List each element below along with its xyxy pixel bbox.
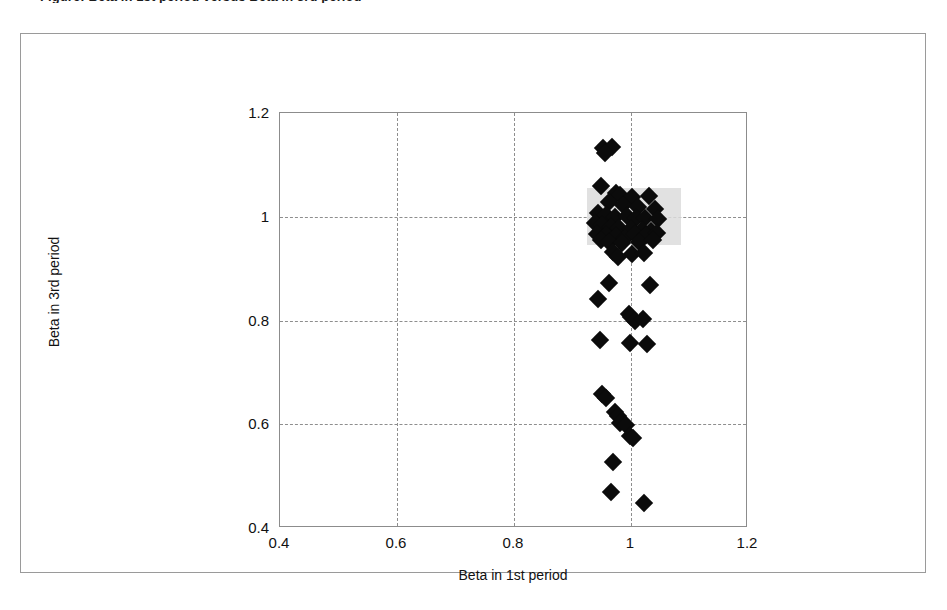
x-tick-label: 1 [626, 534, 634, 551]
y-tick-label: 1.2 [221, 104, 269, 121]
gridline-vertical [514, 113, 515, 526]
y-tick-label: 0.8 [221, 311, 269, 328]
data-point-marker [600, 274, 618, 292]
data-point-marker [589, 290, 607, 308]
x-tick-label: 0.6 [386, 534, 407, 551]
x-tick-label: 1.2 [737, 534, 758, 551]
data-point-marker [591, 331, 609, 349]
gridline-horizontal [280, 424, 746, 425]
scatter-plot-area [279, 112, 747, 527]
data-point-marker [641, 276, 659, 294]
y-tick-label: 0.4 [221, 519, 269, 536]
figure-caption: Figure: Beta in 1st period versus Beta i… [40, 0, 840, 3]
data-point-marker [621, 334, 639, 352]
gridline-horizontal [280, 321, 746, 322]
y-axis-title: Beta in 3rd period [46, 192, 62, 392]
gridline-vertical [397, 113, 398, 526]
x-tick-label: 0.4 [269, 534, 290, 551]
gridline-horizontal [280, 217, 746, 218]
data-point-marker [635, 494, 653, 512]
y-tick-label: 1 [221, 207, 269, 224]
data-point-marker [602, 482, 620, 500]
figure-frame: 0.40.60.811.2 0.40.60.811.2 Beta in 1st … [20, 33, 926, 573]
y-tick-label: 0.6 [221, 415, 269, 432]
x-tick-label: 0.8 [503, 534, 524, 551]
x-axis-title: Beta in 1st period [279, 567, 747, 583]
data-point-marker [638, 335, 656, 353]
data-point-marker [604, 453, 622, 471]
